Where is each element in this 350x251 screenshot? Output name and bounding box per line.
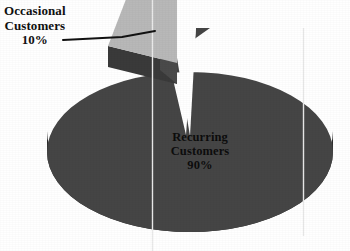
occasional-label-line-1: Occasional (4, 4, 66, 19)
occasional-label-percent: 10% (4, 33, 66, 48)
pie-chart-figure: Occasional Customers 10% Recurring Custo… (0, 0, 350, 251)
slice-label-occasional-customers: Occasional Customers 10% (4, 4, 66, 48)
recurring-label-percent: 90% (148, 158, 252, 172)
recurring-label-line-2: Customers (148, 144, 252, 158)
occasional-label-line-2: Customers (4, 19, 66, 34)
slice-label-recurring-customers: Recurring Customers 90% (148, 130, 252, 172)
recurring-label-line-1: Recurring (148, 130, 252, 144)
slice-occasional-customers[interactable] (108, 0, 177, 84)
